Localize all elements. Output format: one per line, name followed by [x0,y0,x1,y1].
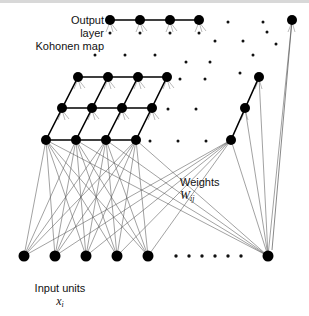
input-unit-nodes [19,251,274,262]
weights-label: Weights Wij [180,176,244,205]
input-symbol: xi [12,295,108,311]
weights-symbol: Wij [180,189,244,205]
input-symbol-subscript: i [62,300,64,309]
weight-edges-left [24,140,148,256]
weights-symbol-subscript: ij [190,194,194,203]
input-units-label: Input units xi [12,282,108,311]
weights-symbol-base: W [180,188,190,202]
kohonen-map-figure: Output layer Kohonen map Weights Wij Inp… [0,0,309,316]
far-right-connector [272,20,292,250]
output-layer-line-3: Kohonen map [0,40,104,53]
output-layer-label: Output layer Kohonen map [0,14,104,53]
input-ellipsis-dots [174,254,242,257]
output-right-column-nodes [226,72,264,145]
continuation-dots [94,21,278,143]
output-layer-line-2: layer [0,27,104,40]
output-layer-line-1: Output [0,14,104,27]
